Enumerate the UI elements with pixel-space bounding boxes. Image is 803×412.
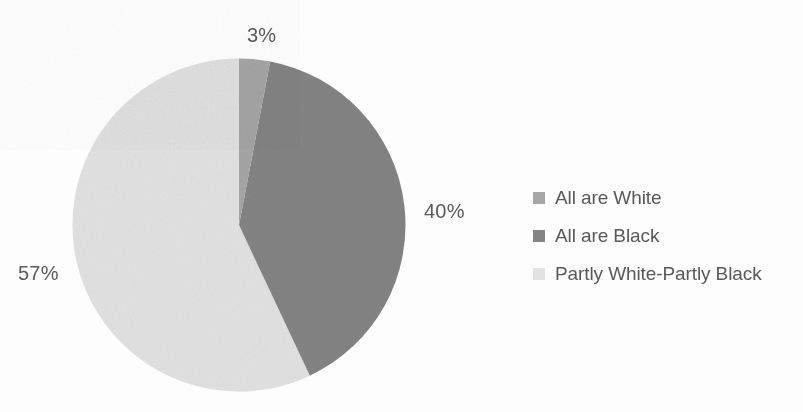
legend-item-all-are-black: All are Black	[533, 217, 762, 255]
legend-swatch-partly-white-partly-black	[533, 268, 545, 280]
pie-value-label-partly-white-partly-black: 57%	[18, 262, 59, 285]
legend-label-partly-white-partly-black: Partly White-Partly Black	[555, 263, 762, 285]
legend-label-all-are-white: All are White	[555, 187, 661, 209]
legend-item-all-are-white: All are White	[533, 179, 762, 217]
pie-value-label-all-are-black: 40%	[424, 200, 465, 223]
pie-value-label-all-are-white: 3%	[247, 24, 276, 47]
pie-chart-figure: 3% 40% 57% All are White All are Black P…	[0, 0, 803, 412]
legend-swatch-all-are-white	[533, 192, 545, 204]
pie-chart-plot-area	[72, 58, 406, 392]
legend-item-partly-white-partly-black: Partly White-Partly Black	[533, 255, 762, 293]
chart-legend: All are White All are Black Partly White…	[533, 179, 762, 293]
legend-swatch-all-are-black	[533, 230, 545, 242]
legend-label-all-are-black: All are Black	[555, 225, 659, 247]
pie-chart-svg	[72, 58, 406, 392]
